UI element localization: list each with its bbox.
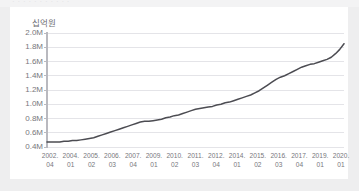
cropped-title-ghost: · · · · · · · · · · · — [12, 0, 70, 6]
x-axis-tick-year: 2017. — [291, 152, 308, 159]
x-axis-tick-year: 2010. — [166, 152, 183, 159]
y-axis-tick-label: 0.8M — [13, 114, 43, 123]
x-axis-tick-year: 2012. — [208, 152, 225, 159]
y-axis-tick-label: 1.6M — [13, 57, 43, 66]
y-axis-tick-label: 1.2M — [13, 85, 43, 94]
y-axis-tick-label: 1.0M — [13, 99, 43, 108]
x-axis-tick-year: 2011. — [187, 152, 203, 159]
x-axis-tick-quarter: 01 — [328, 160, 354, 169]
x-axis-tick-year: 2019. — [312, 152, 329, 159]
x-axis-tick-year: 2002. — [42, 152, 59, 159]
chart-card: 십억원 2.0M1.8M1.6M1.4M1.2M1.0M0.8M0.6M0.4M… — [10, 7, 348, 179]
x-axis-tick-year: 2014. — [229, 152, 246, 159]
x-axis-tick-year: 2006. — [104, 152, 121, 159]
y-axis-tick-label: 0.6M — [13, 128, 43, 137]
line-chart: 2.0M1.8M1.6M1.4M1.2M1.0M0.8M0.6M0.4M 200… — [10, 7, 348, 179]
x-axis-tick-year: 2007. — [125, 152, 142, 159]
x-axis-tick-year: 2004. — [63, 152, 80, 159]
y-axis-tick-label: 0.4M — [13, 142, 43, 151]
x-axis-tick-label: 2020.01 — [328, 151, 354, 169]
y-axis-tick-label: 1.4M — [13, 71, 43, 80]
x-axis-tick-year: 2016. — [270, 152, 287, 159]
cropped-top-strip: · · · · · · · · · · · — [0, 0, 359, 7]
x-axis-tick-year: 2015. — [250, 152, 267, 159]
x-axis-tick-year: 2020. — [333, 152, 350, 159]
x-axis-tick-year: 2005. — [83, 152, 100, 159]
y-axis-tick-label: 2.0M — [13, 28, 43, 37]
y-axis-tick-label: 1.8M — [13, 42, 43, 51]
series-line — [47, 44, 344, 142]
x-axis-tick-year: 2009. — [146, 152, 163, 159]
